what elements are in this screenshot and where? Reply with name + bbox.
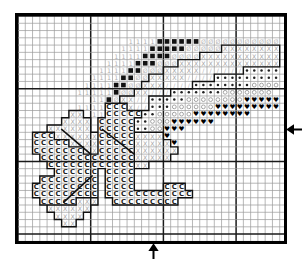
cross-stitch-chart: 1111ØØØØØØØØØØØ1111ØØØØØXXXXXXXX1111ØØØØ… (0, 0, 303, 260)
center-marker-bottom-arrow-icon (148, 242, 159, 260)
center-marker-right-arrow-icon (285, 124, 303, 135)
grid-area: 1111ØØØØØØØØØØØ1111ØØØØØXXXXXXXX1111ØØØØ… (18, 16, 284, 241)
backstitch-layer (18, 16, 284, 241)
backstitch-petal-vein-upper-left (62, 129, 91, 154)
backstitch-petal-vein-center (102, 129, 134, 154)
backstitch-petal-vein-lower-left (64, 176, 92, 202)
chart-frame: 1111ØØØØØØØØØØØ1111ØØØØØXXXXXXXX1111ØØØØ… (15, 13, 287, 244)
